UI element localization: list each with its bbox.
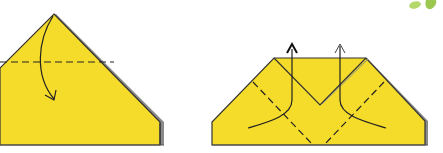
leaf-decoration-icon bbox=[408, 0, 436, 10]
paper-shape bbox=[212, 58, 425, 145]
step-1-figure bbox=[0, 14, 164, 145]
step-2-figure bbox=[212, 44, 428, 145]
origami-diagram bbox=[0, 0, 443, 153]
paper-shape bbox=[0, 14, 160, 145]
